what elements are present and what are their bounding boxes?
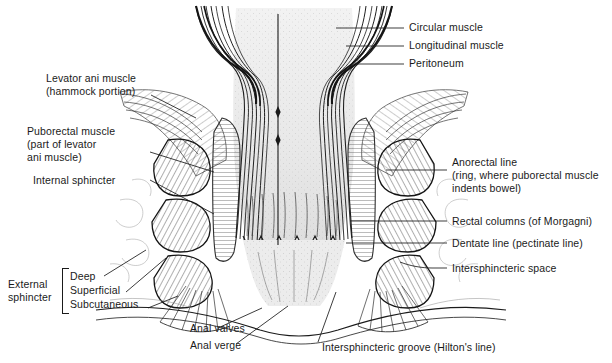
- internal-sphincter-right: [348, 118, 375, 261]
- external-sphincter-right: [376, 139, 436, 308]
- label-intersphincteric-space: Intersphincteric space: [452, 262, 556, 275]
- label-external-sphincter-l2: sphincter: [8, 291, 52, 304]
- internal-sphincter-left: [213, 118, 240, 261]
- anal-canal-mucosa: [243, 240, 345, 306]
- label-anal-verge: Anal verge: [190, 339, 241, 352]
- label-anorectal-line-l3: indents bowel): [452, 182, 521, 195]
- label-dentate-line: Dentate line (pectinate line): [452, 237, 583, 250]
- label-puborectal-l1: Puborectal muscle: [27, 125, 115, 138]
- label-superficial: Superficial: [70, 284, 120, 297]
- diagram-page: Circular muscle Longitudinal muscle Peri…: [0, 0, 612, 363]
- label-internal-sphincter: Internal sphincter: [33, 174, 115, 187]
- label-subcutaneous: Subcutaneous: [70, 298, 138, 311]
- leader-deep: [104, 250, 146, 276]
- label-deep: Deep: [70, 270, 96, 283]
- label-levator-ani-l2: (hammock portion): [46, 85, 135, 98]
- label-external-sphincter-l1: External: [8, 278, 47, 291]
- label-anorectal-line-l2: (ring, where puborectal muscle: [452, 169, 599, 182]
- label-levator-ani-l1: Levator ani muscle: [46, 72, 136, 85]
- label-puborectal-l3: ani muscle): [27, 151, 82, 164]
- label-rectal-columns: Rectal columns (of Morgagni): [452, 215, 592, 228]
- external-sphincter-left: [152, 139, 212, 308]
- label-circular-muscle: Circular muscle: [409, 21, 483, 34]
- label-anorectal-line-l1: Anorectal line: [452, 156, 517, 169]
- label-anal-valves: Anal valves: [190, 322, 245, 335]
- label-longitudinal-muscle: Longitudinal muscle: [409, 39, 504, 52]
- label-peritoneum: Peritoneum: [409, 57, 464, 70]
- ischioanal-fat-left: [110, 179, 151, 282]
- label-intersphincteric-groove: Intersphincteric groove (Hilton's line): [322, 341, 496, 354]
- external-sphincter-bracket: [62, 268, 69, 314]
- label-puborectal-l2: (part of levator: [27, 138, 96, 151]
